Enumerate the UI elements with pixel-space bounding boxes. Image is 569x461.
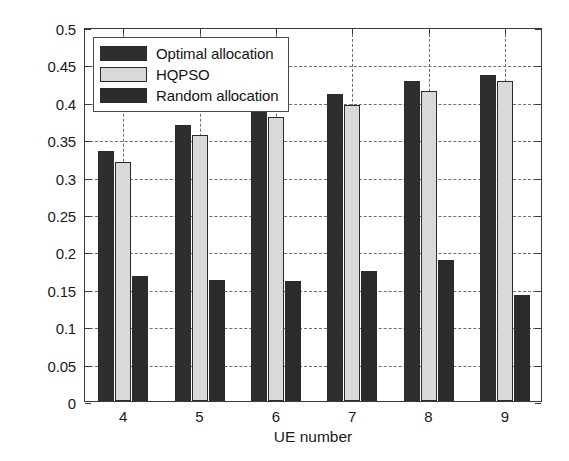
y-tick-label: 0.45 bbox=[48, 58, 76, 75]
y-tick-mark-right bbox=[535, 104, 541, 105]
x-tick-mark-top bbox=[352, 29, 353, 34]
bar bbox=[251, 107, 267, 401]
y-tick-mark-right bbox=[535, 403, 541, 404]
bar bbox=[421, 91, 437, 401]
bar bbox=[285, 281, 301, 401]
y-tick-mark-right bbox=[535, 216, 541, 217]
bar bbox=[344, 105, 360, 401]
gridline-horizontal bbox=[85, 141, 541, 142]
y-tick-mark bbox=[85, 104, 91, 105]
y-tick-mark bbox=[85, 366, 91, 367]
bar bbox=[327, 94, 343, 401]
legend-label: Optimal allocation bbox=[156, 45, 273, 62]
x-tick-label: 8 bbox=[424, 408, 432, 425]
x-tick-label: 4 bbox=[119, 408, 127, 425]
gridline-horizontal bbox=[85, 328, 541, 329]
y-tick-mark bbox=[85, 29, 91, 30]
bar bbox=[115, 162, 131, 401]
gridline-horizontal bbox=[85, 291, 541, 292]
x-tick-label: 6 bbox=[272, 408, 280, 425]
x-tick-mark-top bbox=[276, 29, 277, 34]
chart-legend: Optimal allocationHQPSORandom allocation bbox=[93, 37, 289, 112]
gridline-horizontal bbox=[85, 216, 541, 217]
bar bbox=[438, 260, 454, 401]
x-tick-mark-top bbox=[505, 29, 506, 34]
y-tick-mark bbox=[85, 291, 91, 292]
y-tick-label: 0 bbox=[68, 395, 76, 412]
y-tick-mark bbox=[85, 179, 91, 180]
y-tick-mark-right bbox=[535, 141, 541, 142]
y-tick-mark-right bbox=[535, 328, 541, 329]
legend-swatch-icon bbox=[100, 88, 147, 103]
y-tick-mark-right bbox=[535, 179, 541, 180]
y-tick-mark-right bbox=[535, 29, 541, 30]
y-tick-label: 0.15 bbox=[48, 282, 76, 299]
y-tick-mark bbox=[85, 66, 91, 67]
bar bbox=[192, 135, 208, 401]
y-tick-mark-right bbox=[535, 253, 541, 254]
x-tick-label: 7 bbox=[348, 408, 356, 425]
x-tick-mark-top bbox=[123, 29, 124, 34]
gridline-horizontal bbox=[85, 366, 541, 367]
bar-chart-figure: Saved completion time（s） UE number 00.05… bbox=[0, 0, 569, 461]
gridline-horizontal bbox=[85, 179, 541, 180]
plot-area: 00.050.10.150.20.250.30.350.40.450.5 456… bbox=[84, 28, 542, 402]
legend-item: HQPSO bbox=[100, 64, 279, 85]
x-tick-mark-top bbox=[429, 29, 430, 34]
y-tick-mark bbox=[85, 403, 91, 404]
y-tick-mark bbox=[85, 253, 91, 254]
x-tick-label: 5 bbox=[195, 408, 203, 425]
y-tick-label: 0.3 bbox=[56, 170, 76, 187]
y-tick-label: 0.25 bbox=[48, 208, 76, 225]
legend-swatch-icon bbox=[100, 67, 147, 82]
bar bbox=[132, 276, 148, 401]
y-tick-label: 0.2 bbox=[56, 245, 76, 262]
legend-label: Random allocation bbox=[156, 87, 279, 104]
y-tick-mark bbox=[85, 328, 91, 329]
x-tick-mark-top bbox=[200, 29, 201, 34]
legend-item: Optimal allocation bbox=[100, 43, 279, 64]
y-tick-label: 0.35 bbox=[48, 133, 76, 150]
y-tick-label: 0.05 bbox=[48, 357, 76, 374]
bar bbox=[209, 280, 225, 401]
bar bbox=[514, 295, 530, 401]
gridline-horizontal bbox=[85, 253, 541, 254]
y-tick-mark-right bbox=[535, 291, 541, 292]
x-axis-title: UE number bbox=[84, 428, 542, 446]
bar bbox=[361, 271, 377, 401]
bar bbox=[497, 81, 513, 401]
y-tick-mark-right bbox=[535, 66, 541, 67]
y-tick-label: 0.1 bbox=[56, 320, 76, 337]
bar bbox=[175, 125, 191, 401]
y-tick-mark bbox=[85, 141, 91, 142]
bar bbox=[480, 75, 496, 401]
y-tick-label: 0.4 bbox=[56, 95, 76, 112]
y-tick-mark bbox=[85, 216, 91, 217]
legend-label: HQPSO bbox=[156, 66, 210, 83]
bar bbox=[268, 117, 284, 401]
x-tick-label: 9 bbox=[501, 408, 509, 425]
legend-item: Random allocation bbox=[100, 85, 279, 106]
legend-swatch-icon bbox=[100, 46, 147, 61]
y-tick-label: 0.5 bbox=[56, 21, 76, 38]
bar bbox=[404, 81, 420, 401]
y-tick-mark-right bbox=[535, 366, 541, 367]
bar bbox=[98, 151, 114, 401]
